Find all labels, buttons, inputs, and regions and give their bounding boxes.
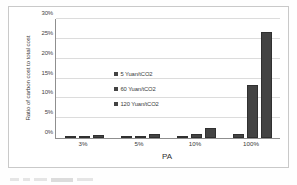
x-axis-title: PA [55,152,279,161]
bar-5pct-series2 [135,136,146,138]
bar-5pct-series3 [149,134,160,138]
x-tick-label-5pct: 5% [111,140,167,147]
chart-frame: Ratio of carbon cost to total cost 30% 2… [8,6,289,168]
y-tick-label-20: 20% [42,50,53,56]
bar-group-10pct [168,19,224,138]
legend-label-series1: 5 Yuan/tCO2 [121,71,153,77]
bar-3pct-series1 [65,136,76,138]
scan-artifact-strip [10,176,130,183]
scan-artifact-mark [23,178,30,181]
bar-5pct-series1 [121,136,132,138]
bar-100pct-series3 [261,32,272,138]
legend-label-series2: 60 Yuan/tCO2 [121,86,156,92]
x-axis-tick-labels: 3% 5% 10% 100% [55,140,279,147]
y-axis-title-label: Ratio of carbon cost to total cost [25,36,31,121]
bar-3pct-series2 [79,136,90,138]
figure: Ratio of carbon cost to total cost 30% 2… [0,0,297,185]
legend-swatch-icon-series3 [114,102,118,106]
x-tick-label-3pct: 3% [55,140,111,147]
legend-item-5-yuan: 5 Yuan/tCO2 [114,71,159,77]
bar-100pct-series1 [233,134,244,138]
y-tick-label-15: 15% [42,70,53,76]
bar-10pct-series3 [205,128,216,138]
y-tick-label-0: 0% [45,129,53,135]
legend-item-120-yuan: 120 Yuan/tCO2 [114,101,159,107]
bar-10pct-series2 [191,134,202,138]
plot-area: 30% 25% 20% 15% 10% 5% 0% [55,19,280,139]
y-tick-label-5: 5% [45,109,53,115]
bar-group-100pct [224,19,280,138]
x-tick-label-100pct: 100% [223,140,279,147]
scan-artifact-mark [34,178,47,181]
bar-group-3pct [56,19,112,138]
y-tick-label-30: 30% [42,10,53,16]
scan-artifact-mark [51,178,73,182]
scan-artifact-mark [77,178,93,181]
bars-layer [56,19,280,138]
x-tick-label-10pct: 10% [167,140,223,147]
bar-3pct-series3 [93,135,104,138]
legend-label-series3: 120 Yuan/tCO2 [121,101,159,107]
bar-100pct-series2 [247,85,258,138]
y-tick-label-25: 25% [42,30,53,36]
y-axis-title: Ratio of carbon cost to total cost [23,19,33,138]
chart-legend: 5 Yuan/tCO2 60 Yuan/tCO2 120 Yuan/tCO2 [114,71,159,107]
bar-10pct-series1 [177,136,188,138]
legend-swatch-icon-series2 [114,87,118,91]
y-tick-label-10: 10% [42,89,53,95]
legend-swatch-icon-series1 [114,72,118,76]
legend-item-60-yuan: 60 Yuan/tCO2 [114,86,159,92]
scan-artifact-mark [10,178,19,181]
